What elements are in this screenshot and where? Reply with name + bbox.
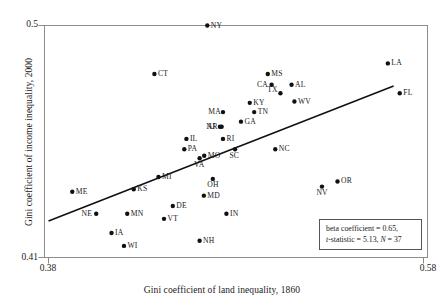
data-point bbox=[221, 137, 225, 141]
n-value: = 37 bbox=[386, 235, 402, 244]
data-point-label: MS bbox=[271, 69, 282, 78]
data-point-label: DE bbox=[176, 201, 187, 210]
data-point bbox=[278, 91, 282, 95]
data-point-label: FL bbox=[403, 88, 412, 97]
data-point-label: IL bbox=[190, 134, 198, 143]
data-point-label: VA bbox=[194, 160, 204, 169]
data-point-label: SC bbox=[229, 151, 239, 160]
data-point-label: NJ bbox=[206, 122, 215, 131]
data-point bbox=[202, 193, 206, 197]
data-point bbox=[273, 147, 277, 151]
data-point-label: NE bbox=[82, 209, 93, 218]
data-point-label: ME bbox=[76, 187, 88, 196]
data-point bbox=[248, 101, 252, 105]
data-point bbox=[252, 110, 256, 114]
data-point-label: CT bbox=[158, 69, 168, 78]
data-point-label: TX bbox=[267, 85, 278, 94]
data-point bbox=[122, 244, 126, 248]
data-point-label: KY bbox=[253, 98, 264, 107]
data-point-label: IN bbox=[230, 209, 238, 218]
data-point-label: GA bbox=[244, 117, 255, 126]
data-point bbox=[292, 99, 296, 103]
data-point-label: NY bbox=[211, 21, 222, 30]
data-point bbox=[239, 119, 243, 123]
data-point bbox=[386, 61, 390, 65]
data-point-label: AL bbox=[295, 80, 306, 89]
data-point bbox=[197, 239, 201, 243]
x-axis-title: Gini coefficient of land inequality, 186… bbox=[0, 285, 444, 295]
data-point bbox=[132, 187, 136, 191]
data-point-label: MD bbox=[207, 191, 220, 200]
data-point-label: NC bbox=[279, 144, 290, 153]
data-point-label: LA bbox=[391, 58, 402, 67]
data-point-label: TN bbox=[258, 107, 269, 116]
data-point bbox=[202, 153, 206, 157]
data-point bbox=[335, 179, 339, 183]
data-point-label: WI bbox=[127, 241, 137, 250]
t-statistic-value: -statistic = 5.13, bbox=[328, 235, 380, 244]
data-point bbox=[221, 110, 225, 114]
plot-canvas bbox=[0, 0, 444, 306]
data-point bbox=[171, 204, 175, 208]
data-point-label: VT bbox=[167, 214, 178, 223]
data-point bbox=[152, 72, 156, 76]
data-point-label: MO bbox=[208, 151, 221, 160]
regression-line-segment bbox=[49, 86, 394, 221]
data-point-label: IA bbox=[115, 228, 123, 237]
y-axis-title: Gini coefficient of income inequality, 2… bbox=[24, 17, 34, 267]
data-point bbox=[218, 125, 222, 129]
data-point bbox=[182, 147, 186, 151]
data-point bbox=[109, 231, 113, 235]
data-point-label: OH bbox=[207, 180, 218, 189]
data-point bbox=[398, 91, 402, 95]
data-point bbox=[224, 211, 228, 215]
scatter-plot-figure: 0.5 0.41 0.38 0.58 Gini coefficient of l… bbox=[0, 0, 444, 306]
x-axis-tick-left: 0.38 bbox=[30, 263, 66, 273]
t-statistic-text: t-statistic = 5.13, N = 37 bbox=[326, 235, 416, 246]
data-point bbox=[162, 217, 166, 221]
beta-coefficient-text: beta coefficient = 0.65, bbox=[326, 224, 416, 235]
statistics-annotation-box: beta coefficient = 0.65, t-statistic = 5… bbox=[319, 219, 422, 250]
data-point bbox=[70, 190, 74, 194]
data-point bbox=[266, 72, 270, 76]
data-point-label: CA bbox=[257, 80, 268, 89]
data-point-label: PA bbox=[188, 144, 197, 153]
data-point-label: WV bbox=[298, 97, 311, 106]
data-point-label: KS bbox=[137, 184, 147, 193]
data-point bbox=[156, 175, 160, 179]
regression-line bbox=[49, 86, 394, 221]
data-point bbox=[94, 211, 98, 215]
data-point bbox=[289, 83, 293, 87]
data-point-label: MI bbox=[162, 172, 172, 181]
data-point bbox=[184, 137, 188, 141]
data-point bbox=[205, 23, 209, 27]
data-point bbox=[125, 211, 129, 215]
data-point-label: NH bbox=[203, 236, 214, 245]
data-point-label: OR bbox=[341, 176, 352, 185]
x-axis-tick-right: 0.58 bbox=[410, 263, 444, 273]
data-point-label: NV bbox=[316, 188, 327, 197]
data-point-label: RI bbox=[226, 134, 234, 143]
data-point-label: MA bbox=[208, 107, 221, 116]
data-point-label: MN bbox=[131, 209, 144, 218]
